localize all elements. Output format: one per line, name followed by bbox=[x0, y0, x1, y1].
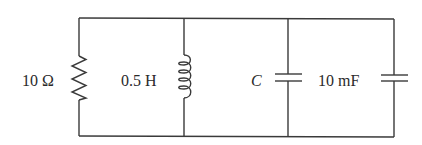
resistor-label: 10 Ω bbox=[22, 72, 54, 89]
inductor-label: 0.5 H bbox=[121, 72, 157, 89]
inductor-branch bbox=[179, 18, 191, 136]
capacitor-c-icon bbox=[275, 74, 302, 81]
resistor-branch bbox=[72, 18, 86, 136]
capacitor-10mf-icon bbox=[381, 75, 408, 81]
capacitor-c-branch bbox=[275, 19, 302, 137]
bottom-rail-wire bbox=[79, 136, 394, 137]
resistor-icon bbox=[72, 56, 86, 100]
capacitor-10mf-label: 10 mF bbox=[318, 72, 359, 89]
capacitor-c-label: C bbox=[251, 72, 262, 89]
top-rail-wire bbox=[79, 18, 394, 19]
circuit-diagram: 10 Ω 0.5 H C 10 mF bbox=[0, 0, 422, 145]
capacitor-10mf-branch bbox=[381, 19, 408, 137]
inductor-icon bbox=[179, 55, 191, 98]
